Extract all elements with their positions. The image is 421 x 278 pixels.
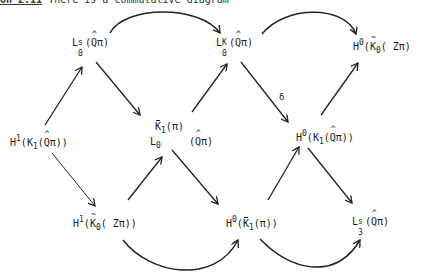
arrow-l0s-to-l0k1 — [96, 62, 140, 115]
node-l0s: L s 0(Qπ) — [72, 38, 109, 48]
curve-l0k-to-h0k0 — [262, 12, 356, 34]
curve-l0s-to-l0k — [110, 12, 220, 33]
node-h0k0: H0(K0( Zπ) — [353, 40, 411, 55]
arrow-h0k1bar-to-h0k1q — [268, 147, 299, 200]
arrow-l0k1-to-h0k1bar — [172, 150, 218, 204]
node-h1k0: H1(K0( Zπ)) — [73, 217, 137, 232]
node-h0k1q: H0(K1(Qπ)) — [296, 131, 354, 146]
curve-h1k0-to-h0k1bar — [123, 240, 238, 270]
arrow-h1k1-to-h1k0 — [52, 153, 95, 206]
node-h0k1bar: H0(K1(π)) — [226, 217, 278, 232]
node-l3s: L s 3(Qπ) — [352, 217, 389, 227]
node-l0k1-base: L0 — [150, 137, 161, 150]
arrow-h0k1q-to-l3s — [308, 148, 352, 203]
arrow-l0k1-to-l0k — [192, 64, 227, 112]
arrow-h0k1q-to-h0k0 — [321, 63, 358, 115]
arrow-h1k1-to-l0s — [45, 67, 82, 125]
delta-label: δ — [279, 92, 284, 102]
curve-h0k1bar-to-l3s — [260, 239, 360, 267]
node-l0k1-top: K1(π) — [155, 122, 184, 135]
node-h1k1: H1(K1(Qπ)) — [10, 136, 68, 151]
node-l0k: L K 0(Qπ) — [216, 38, 253, 48]
arrow-h1k0-to-l0k1 — [128, 157, 162, 200]
node-l0k1-arg: (Qπ) — [189, 137, 213, 147]
